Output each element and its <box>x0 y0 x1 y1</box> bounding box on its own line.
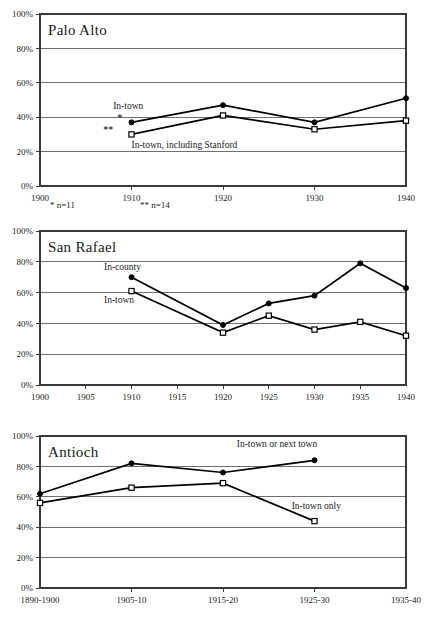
x-tick-label: 1915 <box>168 392 187 402</box>
y-tick-label: 60% <box>17 288 34 298</box>
y-tick-label: 40% <box>17 319 34 329</box>
x-tick-label: 1920 <box>214 193 233 203</box>
plot-frame <box>40 14 406 186</box>
data-point-marker <box>312 120 317 125</box>
series-annotation-label: In-town only <box>292 501 342 511</box>
x-tick-label: 1930 <box>306 392 325 402</box>
series-annotation-label: In-county <box>104 262 141 272</box>
data-point-marker <box>312 458 317 463</box>
data-point-marker <box>129 485 134 490</box>
data-point-marker <box>358 261 363 266</box>
y-tick-label: 40% <box>17 522 34 532</box>
x-tick-label: 1935-40 <box>391 595 421 605</box>
y-tick-label: 80% <box>17 44 34 54</box>
data-point-marker <box>129 132 134 137</box>
data-point-marker <box>312 327 317 332</box>
data-point-marker <box>266 313 271 318</box>
footnote-marker: * <box>117 112 122 123</box>
chart-footnote: * n=11 <box>50 200 75 210</box>
y-tick-label: 80% <box>17 257 34 267</box>
x-tick-label: 1915-20 <box>208 595 238 605</box>
data-point-marker <box>220 330 225 335</box>
x-tick-label: 1935 <box>351 392 370 402</box>
series-annotation-label: In-town or next town <box>237 439 318 449</box>
data-point-marker <box>312 127 317 132</box>
y-tick-label: 40% <box>17 112 34 122</box>
series-line-1 <box>132 115 407 134</box>
y-tick-label: 60% <box>17 78 34 88</box>
y-tick-label: 100% <box>12 226 34 236</box>
x-tick-label: 1910 <box>123 193 142 203</box>
x-tick-label: 1940 <box>397 193 416 203</box>
y-tick-label: 100% <box>12 431 34 441</box>
chart-panel-san-rafael: 0%20%40%60%80%100%1900190519101915192019… <box>0 225 435 415</box>
chart-title: Antioch <box>48 444 99 460</box>
data-point-marker <box>358 319 363 324</box>
y-tick-label: 80% <box>17 462 34 472</box>
data-point-marker <box>38 491 43 496</box>
series-annotation-label: In-town <box>104 295 134 305</box>
y-tick-label: 0% <box>21 583 34 593</box>
chart-panel-palo-alto: 0%20%40%60%80%100%19001910192019301940Pa… <box>0 0 435 220</box>
series-line-0 <box>132 98 407 122</box>
chart-title: San Rafael <box>48 239 116 255</box>
data-point-marker <box>129 461 134 466</box>
x-tick-label: 1900 <box>31 392 50 402</box>
data-point-marker <box>129 275 134 280</box>
y-tick-label: 0% <box>21 380 34 390</box>
x-tick-label: 1900 <box>31 193 50 203</box>
x-tick-label: 1910 <box>123 392 142 402</box>
x-tick-label: 1905 <box>77 392 96 402</box>
x-tick-label: 1905-10 <box>117 595 147 605</box>
y-tick-label: 20% <box>17 553 34 563</box>
y-tick-label: 20% <box>17 147 34 157</box>
series-annotation-label: In-town, including Stanford <box>132 140 238 150</box>
data-point-marker <box>221 103 226 108</box>
y-tick-label: 60% <box>17 492 34 502</box>
data-point-marker <box>403 118 408 123</box>
y-tick-label: 100% <box>12 9 34 19</box>
palo-alto-plot: 0%20%40%60%80%100%19001910192019301940Pa… <box>0 0 435 220</box>
figure-page: 0%20%40%60%80%100%19001910192019301940Pa… <box>0 0 435 620</box>
data-point-marker <box>312 519 317 524</box>
san-rafael-plot: 0%20%40%60%80%100%1900190519101915192019… <box>0 225 435 415</box>
data-point-marker <box>221 322 226 327</box>
data-point-marker <box>221 470 226 475</box>
chart-panel-antioch: 0%20%40%60%80%100%1890-19001905-101915-2… <box>0 420 435 620</box>
data-point-marker <box>37 500 42 505</box>
data-point-marker <box>129 288 134 293</box>
x-tick-label: 1925 <box>260 392 279 402</box>
x-tick-label: 1930 <box>306 193 325 203</box>
data-point-marker <box>129 120 134 125</box>
data-point-marker <box>220 481 225 486</box>
data-point-marker <box>312 293 317 298</box>
y-tick-label: 20% <box>17 349 34 359</box>
x-tick-label: 1925-30 <box>300 595 330 605</box>
data-point-marker <box>403 333 408 338</box>
series-line-1 <box>40 483 315 521</box>
chart-footnote: ** n=14 <box>140 200 170 210</box>
x-tick-label: 1920 <box>214 392 233 402</box>
data-point-marker <box>404 96 409 101</box>
data-point-marker <box>404 285 409 290</box>
x-tick-label: 1890-1900 <box>21 595 60 605</box>
y-tick-label: 0% <box>21 181 34 191</box>
series-line-0 <box>40 460 315 493</box>
chart-title: Palo Alto <box>48 22 107 38</box>
x-tick-label: 1940 <box>397 392 416 402</box>
data-point-marker <box>266 301 271 306</box>
footnote-marker: ** <box>103 124 113 135</box>
data-point-marker <box>220 113 225 118</box>
antioch-plot: 0%20%40%60%80%100%1890-19001905-101915-2… <box>0 420 435 620</box>
series-annotation-label: In-town <box>113 101 143 111</box>
